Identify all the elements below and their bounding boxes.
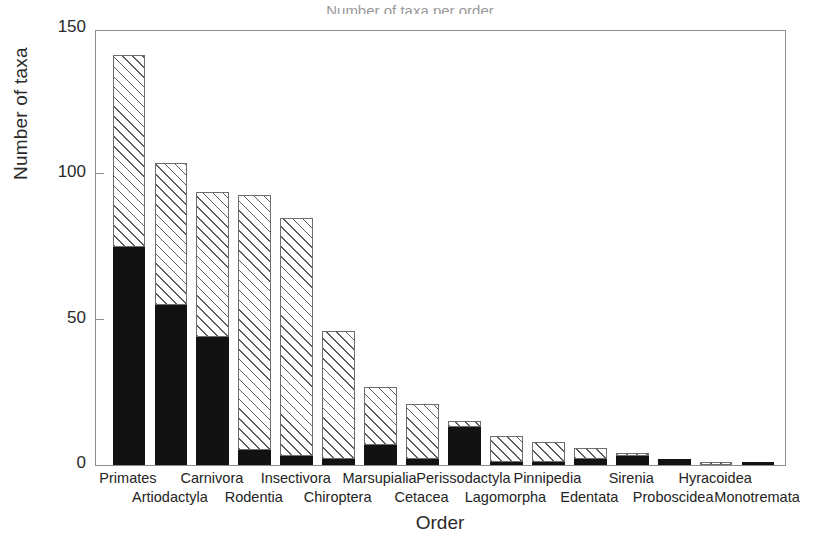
x-tick-label: Pinnipedia [513, 470, 581, 486]
bar-group[interactable] [113, 55, 146, 465]
bar-segment-hatched [700, 462, 733, 465]
bar-group[interactable] [742, 462, 775, 465]
bar-segment-solid [322, 459, 355, 465]
x-tick-label: Primates [99, 470, 156, 486]
bar-group[interactable] [532, 442, 565, 465]
bar-group[interactable] [322, 331, 355, 465]
bar-segment-hatched [196, 192, 229, 337]
x-tick-label: Sirenia [609, 470, 654, 486]
bar-segment-solid [616, 456, 649, 465]
bar-group[interactable] [616, 453, 649, 465]
bar-segment-solid [155, 305, 188, 465]
y-tick-label: 100 [26, 162, 86, 182]
bar-group[interactable] [280, 218, 313, 465]
x-tick-label: Monotremata [714, 489, 799, 505]
bar-segment-solid [742, 462, 775, 465]
x-tick-label: Rodentia [225, 489, 283, 505]
bar-group[interactable] [700, 462, 733, 465]
bar-segment-hatched [364, 387, 397, 445]
x-tick-label: Proboscidea [633, 489, 714, 505]
bar-segment-solid [238, 450, 271, 465]
bar-segment-hatched [155, 163, 188, 305]
bar-segment-solid [196, 337, 229, 465]
bar-group[interactable] [658, 459, 691, 465]
bar-segment-solid [364, 445, 397, 465]
x-tick-label: Hyracoidea [678, 470, 751, 486]
bar-group[interactable] [196, 192, 229, 465]
x-tick-label: Perissodactyla [416, 470, 510, 486]
x-tick-label: Carnivora [180, 470, 243, 486]
bar-segment-hatched [574, 448, 607, 460]
bar-segment-solid [574, 459, 607, 465]
bar-segment-solid [406, 459, 439, 465]
clipped-title-text: Number of taxa per order [0, 0, 820, 14]
y-axis-title: Number of taxa [10, 0, 32, 180]
chart-figure: Number of taxa per order 050100150 Numbe… [0, 0, 820, 550]
bar-group[interactable] [364, 387, 397, 465]
bar-segment-solid [658, 459, 691, 465]
x-axis-tick-labels: PrimatesArtiodactylaCarnivoraRodentiaIns… [0, 470, 820, 510]
bar-segment-hatched [280, 218, 313, 456]
bar-group[interactable] [574, 448, 607, 465]
x-tick-label: Cetacea [395, 489, 449, 505]
bar-segment-solid [532, 462, 565, 465]
bar-segment-hatched [113, 55, 146, 247]
plot-area: 050100150 [95, 30, 786, 466]
y-tick-label: 150 [26, 17, 86, 37]
x-tick-label: Artiodactyla [132, 489, 208, 505]
x-tick-label: Chiroptera [304, 489, 372, 505]
bar-group[interactable] [490, 436, 523, 465]
bar-group[interactable] [406, 404, 439, 465]
x-tick-label: Marsupialia [343, 470, 417, 486]
bar-group[interactable] [155, 163, 188, 465]
y-axis-title-wrapper: Number of taxa [30, 30, 31, 466]
y-tick-label: 50 [26, 308, 86, 328]
bar-segment-solid [113, 247, 146, 465]
bar-group[interactable] [238, 195, 271, 465]
x-axis-title: Order [0, 512, 820, 534]
x-tick-label: Insectivora [261, 470, 331, 486]
bar-series-container [96, 31, 785, 465]
x-tick-label: Edentata [560, 489, 618, 505]
bar-segment-hatched [490, 436, 523, 462]
bar-segment-hatched [322, 331, 355, 459]
bar-group[interactable] [448, 421, 481, 465]
bar-segment-hatched [532, 442, 565, 462]
bar-segment-solid [490, 462, 523, 465]
bar-segment-hatched [238, 195, 271, 451]
bar-segment-hatched [406, 404, 439, 459]
y-axis-tick: 150 [96, 28, 97, 29]
bar-segment-solid [280, 456, 313, 465]
x-tick-label: Lagomorpha [465, 489, 546, 505]
bar-segment-solid [448, 427, 481, 465]
